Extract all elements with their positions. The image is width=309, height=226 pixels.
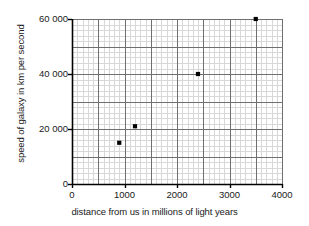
- data-point: [133, 124, 137, 128]
- y-tick-label: 60 000: [39, 13, 68, 24]
- y-tick-label: 20 000: [39, 123, 68, 134]
- y-tick-label: 0: [63, 178, 68, 189]
- x-tick-label: 1000: [114, 189, 135, 200]
- y-tick-label: 40 000: [39, 68, 68, 79]
- x-axis-title: distance from us in millions of light ye…: [0, 206, 309, 217]
- x-tick-label: 4000: [271, 189, 292, 200]
- x-tick-label: 3000: [219, 189, 240, 200]
- x-tick-label: 2000: [166, 189, 187, 200]
- scatter-chart: speed of galaxy in km per second distanc…: [0, 0, 309, 226]
- x-tick-label: 0: [69, 189, 74, 200]
- data-point: [254, 17, 258, 21]
- plot-area: [0, 0, 309, 226]
- y-axis-title: speed of galaxy in km per second: [15, 4, 26, 184]
- data-point: [117, 141, 121, 145]
- data-point: [196, 72, 200, 76]
